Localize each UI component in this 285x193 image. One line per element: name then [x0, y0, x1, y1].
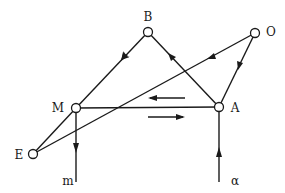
node-b	[144, 28, 153, 37]
label-a: A	[231, 102, 240, 114]
edge-o-e	[33, 33, 255, 154]
label-b: B	[144, 11, 153, 23]
label-alpha: α	[231, 175, 239, 187]
node-e	[29, 150, 38, 159]
node-a	[215, 103, 224, 112]
label-o: O	[266, 26, 276, 38]
edge-a-b	[148, 32, 219, 107]
label-m-node: M	[52, 102, 64, 114]
edge-o-a	[219, 33, 255, 107]
diagram-canvas	[0, 0, 285, 193]
node-m	[72, 104, 81, 113]
label-m-output: m	[62, 175, 73, 187]
edge-m-a	[76, 107, 219, 108]
node-o	[251, 29, 260, 38]
label-e: E	[15, 149, 24, 161]
